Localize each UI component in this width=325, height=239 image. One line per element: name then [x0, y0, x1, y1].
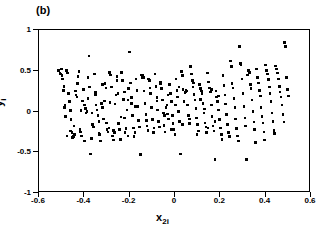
data-point — [160, 87, 163, 90]
data-point — [111, 135, 114, 138]
data-point — [174, 133, 177, 136]
data-point — [145, 119, 148, 122]
data-point — [276, 72, 279, 75]
data-point — [98, 120, 101, 123]
data-point — [114, 103, 117, 106]
data-point — [213, 130, 216, 133]
data-point — [109, 74, 112, 77]
data-point — [180, 70, 183, 73]
data-point — [224, 103, 227, 106]
data-point — [166, 104, 169, 107]
data-point — [61, 78, 64, 81]
data-point — [172, 122, 175, 125]
data-point — [126, 109, 129, 112]
data-point — [179, 153, 182, 156]
data-point — [82, 88, 85, 91]
data-point — [190, 73, 193, 76]
data-point — [93, 73, 96, 76]
data-point — [225, 113, 228, 116]
data-point — [219, 127, 222, 130]
data-point — [231, 82, 234, 85]
data-point — [241, 78, 244, 81]
data-point — [176, 89, 179, 92]
y-tick-mark — [33, 70, 38, 71]
data-point — [251, 99, 254, 102]
panel-label: (b) — [36, 4, 50, 16]
data-point — [287, 95, 290, 98]
data-point — [120, 71, 123, 74]
data-point — [63, 85, 66, 88]
y-axis-title: yi — [0, 98, 8, 106]
data-point — [254, 141, 257, 144]
data-point — [189, 65, 192, 68]
data-point — [70, 118, 73, 121]
data-point — [105, 87, 108, 90]
data-point — [127, 135, 130, 138]
data-point — [103, 100, 106, 103]
data-point — [238, 45, 241, 48]
data-point — [187, 114, 190, 117]
data-point — [268, 86, 271, 89]
data-point — [107, 131, 110, 134]
scatter-plot-figure: (b) 10.50-0.5-1 -0.6-0.4-0.200.20.40.6 x… — [0, 0, 325, 239]
data-point — [156, 109, 159, 112]
data-point — [188, 122, 191, 125]
data-point — [224, 94, 227, 97]
data-point — [253, 121, 256, 124]
data-point — [166, 113, 169, 116]
data-point — [235, 127, 238, 130]
x-tick-label: 0.6 — [304, 196, 315, 205]
data-point — [66, 135, 69, 138]
data-point — [203, 108, 206, 111]
data-point — [76, 96, 79, 99]
data-point — [99, 140, 102, 143]
data-point — [234, 118, 237, 121]
data-point — [63, 106, 66, 109]
data-point — [138, 126, 141, 129]
data-point — [167, 94, 170, 97]
data-point — [266, 73, 269, 76]
data-point — [215, 90, 218, 93]
data-point — [161, 99, 164, 102]
data-point — [228, 135, 231, 138]
data-point — [214, 158, 217, 161]
data-point — [120, 116, 123, 119]
data-point — [273, 132, 276, 135]
data-point — [199, 98, 202, 101]
x-axis-title-subscript: 2i — [162, 217, 169, 226]
data-point — [283, 121, 286, 124]
data-point — [176, 96, 179, 99]
data-point — [261, 115, 264, 118]
data-point — [181, 123, 184, 126]
y-tick-label: 0.5 — [20, 65, 31, 74]
data-point — [125, 127, 128, 130]
data-point — [192, 86, 195, 89]
data-point — [170, 128, 173, 131]
data-point — [112, 139, 115, 142]
data-point — [267, 78, 270, 81]
data-point — [216, 100, 219, 103]
data-point — [181, 74, 184, 77]
data-point — [177, 110, 180, 113]
data-point — [121, 79, 124, 82]
data-point — [143, 90, 146, 93]
data-point — [153, 127, 156, 130]
y-tick-mark — [33, 111, 38, 112]
data-point — [163, 114, 166, 117]
data-point — [248, 71, 251, 74]
data-point — [96, 109, 99, 112]
data-point — [116, 79, 119, 82]
data-point — [122, 98, 125, 101]
data-point — [123, 91, 126, 94]
data-point — [73, 133, 76, 136]
data-point — [263, 139, 266, 142]
data-point — [232, 87, 235, 90]
data-point — [69, 109, 72, 112]
data-point — [69, 130, 72, 133]
data-point — [80, 135, 83, 138]
x-axis-title: x2i — [0, 211, 325, 226]
data-point — [100, 102, 103, 105]
data-point — [88, 55, 91, 58]
data-point — [64, 115, 67, 118]
data-point — [195, 117, 198, 120]
